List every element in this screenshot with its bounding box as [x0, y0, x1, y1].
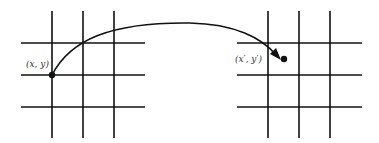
mapping-diagram	[0, 0, 379, 143]
target-grid	[237, 11, 362, 138]
source-point-label: (x, y)	[26, 59, 49, 69]
source-point	[49, 72, 55, 78]
target-point-label: (x′, y′)	[235, 54, 262, 64]
mapping-curve	[52, 23, 276, 75]
source-grid	[21, 11, 145, 138]
target-point	[281, 56, 287, 62]
